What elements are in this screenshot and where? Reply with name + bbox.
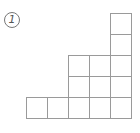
grid-cell (69, 98, 90, 119)
grid-cell (111, 77, 132, 98)
grid-cell (90, 56, 111, 77)
grid-cell (48, 98, 69, 119)
grid-cell (111, 56, 132, 77)
grid-cell (90, 98, 111, 119)
grid-cell (69, 56, 90, 77)
grid-cell (69, 77, 90, 98)
staircase-grid-diagram (0, 0, 140, 133)
grid-cell (27, 98, 48, 119)
grid-cell (111, 98, 132, 119)
grid-cell (111, 35, 132, 56)
grid-cell (111, 14, 132, 35)
grid-cell (90, 77, 111, 98)
